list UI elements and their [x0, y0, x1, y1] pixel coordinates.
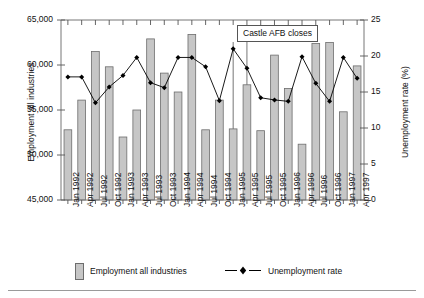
- y-axis-right-tick-label: 20: [371, 50, 399, 60]
- x-axis-tick-label: Apr 1996: [306, 173, 316, 208]
- x-axis-tick-label: Jul 1995: [264, 175, 274, 207]
- x-axis-tick-label: Jan 1995: [237, 172, 247, 207]
- line-marker-jan-1994: [176, 55, 181, 60]
- line-marker-jan-1992: [65, 74, 70, 79]
- line-marker-jul-1994: [203, 64, 208, 69]
- x-axis-tick-label: Oct 1994: [223, 173, 233, 208]
- x-axis-tick-label: Jul 1994: [209, 175, 219, 207]
- x-axis-tick-label: Apr 1993: [140, 173, 150, 208]
- legend-label-employment: Employment all industries: [90, 266, 187, 276]
- x-axis-tick-label: Jan 1997: [347, 172, 357, 207]
- y-axis-left-tick-label: 65,000: [9, 14, 53, 24]
- x-axis-tick-label: Oct 1995: [278, 173, 288, 208]
- x-axis-tick-label: Apr 1995: [250, 173, 260, 208]
- x-axis-tick-label: Jan 1993: [126, 172, 136, 207]
- y-axis-left-tick-label: 50,000: [9, 149, 53, 159]
- diamond-marker-icon: [225, 263, 261, 278]
- x-axis-tick-label: Apr 1992: [85, 173, 95, 208]
- y-axis-right-tick-label: 0: [371, 194, 399, 204]
- annotation-castle-afb: Castle AFB closes: [237, 25, 318, 42]
- x-axis-tick-label: Jul 1992: [99, 175, 109, 207]
- line-marker-apr-1996: [300, 54, 305, 59]
- x-axis-tick-label: Apr 1994: [195, 173, 205, 208]
- legend-label-unemployment: Unemployment rate: [268, 266, 342, 276]
- chart-figure: Employment all industries Unemployment r…: [0, 0, 424, 298]
- footer-divider: [8, 290, 416, 291]
- x-axis-tick-label: Jul 1996: [319, 175, 329, 207]
- y-axis-right-tick-label: 15: [371, 86, 399, 96]
- x-axis-tick-label: Jul 1993: [154, 175, 164, 207]
- x-axis-tick-label: Oct 1992: [113, 173, 123, 208]
- y-axis-right-tick-label: 25: [371, 14, 399, 24]
- chart-legend: Employment all industries Unemployment r…: [0, 262, 424, 282]
- x-axis-tick-label: Oct 1996: [333, 173, 343, 208]
- y-axis-left-tick-label: 45,000: [9, 194, 53, 204]
- plot-area: [0, 0, 424, 298]
- x-axis-tick-label: Jan 1996: [292, 172, 302, 207]
- line-marker-apr-1992: [79, 74, 84, 79]
- x-axis-tick-label: Jan 1994: [182, 172, 192, 207]
- y-axis-left-tick-label: 60,000: [9, 59, 53, 69]
- x-axis-tick-label: Oct 1993: [168, 173, 178, 208]
- bar-swatch-icon: [75, 263, 84, 280]
- y-axis-right-tick-label: 5: [371, 158, 399, 168]
- line-marker-jan-1997: [341, 55, 346, 60]
- y-axis-left-tick-label: 55,000: [9, 104, 53, 114]
- line-marker-jul-1995: [258, 95, 263, 100]
- x-axis-tick-label: Apr 1997: [361, 173, 371, 208]
- x-axis-tick-label: Jan 1992: [71, 172, 81, 207]
- y-axis-right-tick-label: 10: [371, 122, 399, 132]
